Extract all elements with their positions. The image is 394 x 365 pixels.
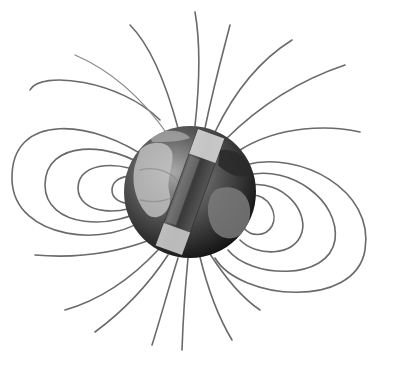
magnetic-field-illustration: [0, 0, 394, 365]
field-lines-top: [75, 12, 345, 140]
field-lines-bottom: [35, 240, 260, 350]
